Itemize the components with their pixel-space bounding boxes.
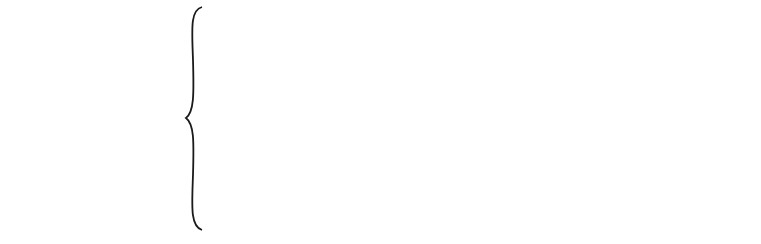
curly-brace-icon	[186, 7, 202, 230]
stripe-pattern-diagram	[0, 0, 761, 244]
